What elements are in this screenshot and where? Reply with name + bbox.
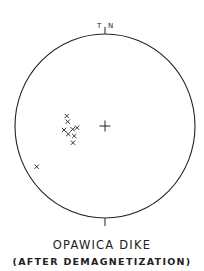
x-marker-icon: [62, 128, 66, 132]
x-marker-icon: [65, 114, 69, 118]
x-marker-icon: [66, 120, 70, 124]
center-plus-icon: [100, 121, 111, 132]
figure-title: OPAWICA DIKE: [0, 238, 204, 252]
x-marker-icon: [66, 132, 70, 136]
x-marker-icon: [71, 127, 75, 131]
stereonet-plot: [0, 0, 204, 271]
x-marker-icon: [72, 134, 76, 138]
figure-subtitle: (AFTER DEMAGNETIZATION): [0, 256, 204, 267]
x-marker-icon: [35, 165, 39, 169]
north-label-n: N: [108, 22, 113, 30]
data-points: [35, 114, 80, 169]
x-marker-icon: [75, 126, 79, 130]
north-label-t: T: [97, 22, 101, 30]
x-marker-icon: [71, 141, 75, 145]
